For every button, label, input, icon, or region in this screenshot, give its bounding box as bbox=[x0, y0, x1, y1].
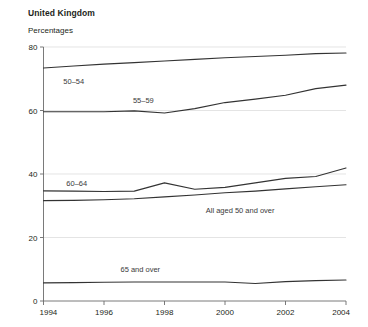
series-label-50-54: 50–54 bbox=[63, 77, 84, 86]
series-line-55-59 bbox=[44, 85, 347, 113]
x-tick-label-2004: 2004 bbox=[332, 308, 350, 317]
x-tick-label-1996: 1996 bbox=[95, 308, 113, 317]
series-label-60-64: 60–64 bbox=[66, 179, 87, 188]
series-line-all-aged-50-and-over bbox=[44, 185, 347, 201]
x-tick-label-2000: 2000 bbox=[216, 308, 234, 317]
series-label-65-and-over: 65 and over bbox=[120, 265, 160, 274]
line-chart-plot: 02040608019941996199820002002200450–5455… bbox=[0, 0, 368, 327]
x-tick-label-1994: 1994 bbox=[40, 308, 58, 317]
y-tick-label-60: 60 bbox=[29, 107, 38, 116]
x-tick-label-2002: 2002 bbox=[277, 308, 295, 317]
series-label-55-59: 55–59 bbox=[133, 96, 154, 105]
series-line-50-54 bbox=[44, 53, 347, 68]
chart-container: United Kingdom Percentages 0204060801994… bbox=[0, 0, 368, 327]
y-tick-label-0: 0 bbox=[33, 297, 38, 306]
x-tick-label-1998: 1998 bbox=[156, 308, 174, 317]
y-tick-label-40: 40 bbox=[29, 170, 38, 179]
series-line-65-and-over bbox=[44, 280, 347, 283]
series-label-all-aged-50-and-over: All aged 50 and over bbox=[206, 206, 275, 215]
y-tick-label-80: 80 bbox=[29, 43, 38, 52]
y-tick-label-20: 20 bbox=[29, 234, 38, 243]
